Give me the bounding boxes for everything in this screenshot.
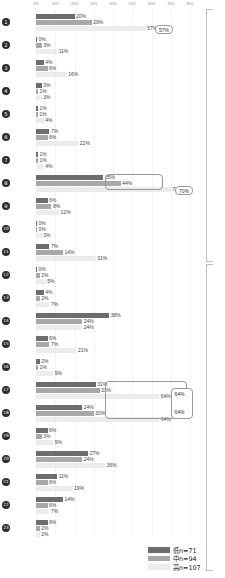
row-marker-8: 8 bbox=[2, 179, 10, 187]
chart-row: 43%1%3% bbox=[0, 81, 225, 104]
bar-fill bbox=[36, 204, 51, 209]
row-marker-23: 23 bbox=[2, 524, 10, 532]
chart-row: 1438%24%24% bbox=[0, 311, 225, 334]
bracket-upper bbox=[206, 9, 213, 262]
bar-value-label: 1% bbox=[38, 364, 47, 370]
x-axis-tick: 50% bbox=[129, 2, 136, 6]
row-marker-13: 13 bbox=[2, 294, 10, 302]
bar-value-label: 29% bbox=[92, 19, 104, 25]
bar-value-label: 7% bbox=[49, 301, 58, 307]
bar-value-label: 4% bbox=[44, 163, 53, 169]
bar-fill bbox=[36, 26, 146, 31]
bar-value-label: 14% bbox=[63, 496, 75, 502]
bar-value-label: 21% bbox=[76, 347, 88, 353]
row-marker-9: 9 bbox=[2, 202, 10, 210]
chart-row: 117%14%31% bbox=[0, 242, 225, 265]
row-marker-18: 18 bbox=[2, 409, 10, 417]
bar-fill bbox=[36, 118, 44, 123]
bar-value-label: 7% bbox=[49, 243, 58, 249]
bar-value-label: 38% bbox=[109, 312, 121, 318]
bar-fill bbox=[36, 428, 48, 433]
bar-value-label: 20% bbox=[75, 13, 87, 19]
row-marker-16: 16 bbox=[2, 363, 10, 371]
bar-value-label: 24% bbox=[82, 324, 94, 330]
chart-row: 120%2%5% bbox=[0, 265, 225, 288]
row-marker-14: 14 bbox=[2, 317, 10, 325]
bar-fill bbox=[36, 411, 94, 416]
bar-fill bbox=[36, 480, 48, 485]
bar-value-label: 3% bbox=[42, 433, 51, 439]
bar-fill bbox=[36, 279, 46, 284]
bar-value-label: 64% bbox=[159, 416, 171, 422]
bar-value-label: 24% bbox=[82, 456, 94, 462]
bar-value-label: 11% bbox=[57, 473, 68, 479]
bar-value-label: 6% bbox=[48, 65, 57, 71]
chart-row: 134%2%7% bbox=[0, 288, 225, 311]
bar-fill bbox=[36, 72, 67, 77]
x-axis-tick: 70% bbox=[167, 2, 174, 6]
callout-64-top: 64% bbox=[175, 391, 185, 397]
chart-row: 162%1%9% bbox=[0, 357, 225, 380]
callout-64-pair: 64%64% bbox=[171, 388, 193, 419]
row-marker-6: 6 bbox=[2, 133, 10, 141]
bar-fill bbox=[36, 210, 59, 215]
row-marker-20: 20 bbox=[2, 455, 10, 463]
bar-fill bbox=[36, 256, 96, 261]
bar-value-label: 16% bbox=[67, 71, 79, 77]
bar-fill bbox=[36, 175, 103, 180]
bar-value-label: 4% bbox=[44, 117, 53, 123]
bar-fill bbox=[36, 417, 159, 422]
bar-fill bbox=[36, 486, 73, 491]
bar-fill bbox=[36, 463, 105, 468]
chart-row: 71%1%4% bbox=[0, 150, 225, 173]
bar-fill bbox=[36, 336, 48, 341]
bar-fill bbox=[36, 497, 63, 502]
bar-value-label: 7% bbox=[49, 508, 58, 514]
bar-fill bbox=[36, 388, 100, 393]
bar-value-label: 11% bbox=[57, 48, 68, 54]
bar-value-label: 5% bbox=[46, 278, 55, 284]
bar-fill bbox=[36, 474, 57, 479]
row-marker-12: 12 bbox=[2, 271, 10, 279]
legend-swatch bbox=[148, 547, 170, 553]
callout-64-bottom: 64% bbox=[175, 409, 185, 415]
bar-fill bbox=[36, 20, 92, 25]
bar-fill bbox=[36, 509, 49, 514]
bar-value-label: 9% bbox=[53, 439, 62, 445]
x-axis-tick: 30% bbox=[90, 2, 97, 6]
bar-fill bbox=[36, 520, 48, 525]
callout-row1-57: 57% bbox=[155, 25, 173, 34]
chart-row: 20%3%11% bbox=[0, 35, 225, 58]
bar-value-label: 35% bbox=[103, 174, 115, 180]
x-axis-tick: 40% bbox=[109, 2, 116, 6]
bar-value-label: 3% bbox=[42, 94, 51, 100]
bar-value-label: 3% bbox=[42, 42, 51, 48]
x-axis-tick: 20% bbox=[71, 2, 78, 6]
chart-row: 2111%6%19% bbox=[0, 472, 225, 495]
bar-fill bbox=[36, 14, 75, 19]
bar-value-label: 3% bbox=[42, 232, 51, 238]
chart-row: 34%6%16% bbox=[0, 58, 225, 81]
bar-value-label: 22% bbox=[78, 140, 90, 146]
bar-fill bbox=[36, 181, 121, 186]
bar-fill bbox=[36, 244, 49, 249]
x-axis-tick: 60% bbox=[148, 2, 155, 6]
bar-value-label: 36% bbox=[105, 462, 117, 468]
bar-value-label: 6% bbox=[48, 134, 57, 140]
row-marker-15: 15 bbox=[2, 340, 10, 348]
bar-fill bbox=[36, 290, 44, 295]
bar-fill bbox=[36, 342, 49, 347]
grouped-bar-chart: 0%10%20%30%40%50%60%70%80% 120%29%57%20%… bbox=[0, 0, 225, 578]
row-marker-1: 1 bbox=[2, 18, 10, 26]
bar-fill bbox=[36, 187, 171, 192]
chart-rows: 120%29%57%20%3%11%34%6%16%43%1%3%51%1%4%… bbox=[0, 12, 225, 541]
bar-fill bbox=[36, 60, 44, 65]
bar-fill bbox=[36, 250, 63, 255]
row-marker-2: 2 bbox=[2, 41, 10, 49]
row-marker-17: 17 bbox=[2, 386, 10, 394]
legend-swatch bbox=[148, 556, 170, 562]
chart-row: 2027%24%36% bbox=[0, 449, 225, 472]
bar-fill bbox=[36, 313, 109, 318]
chart-row: 67%6%22% bbox=[0, 127, 225, 150]
row-marker-5: 5 bbox=[2, 110, 10, 118]
